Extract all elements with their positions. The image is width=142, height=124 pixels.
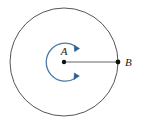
figure-container: A B [0,0,142,124]
concentric-circles-diagram: A B [0,0,142,124]
point-b-dot [116,60,121,65]
label-b: B [125,56,132,68]
inner-circle-arrowhead-bottom [74,73,79,79]
label-a: A [60,45,68,57]
point-a-dot [62,60,66,64]
inner-circle-arrowhead-top [74,45,79,51]
